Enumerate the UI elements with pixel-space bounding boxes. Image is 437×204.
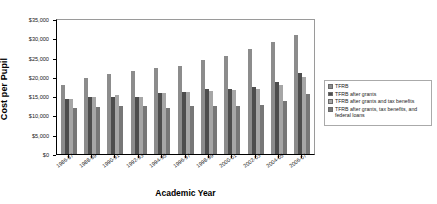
y-tick-label: $35,000 — [29, 17, 49, 23]
legend-swatch-icon — [328, 99, 333, 104]
plot-area — [56, 19, 315, 155]
x-tick-label: 1992-93 — [125, 152, 144, 169]
bar-groups — [57, 20, 314, 154]
bar-group — [61, 20, 77, 154]
bar — [260, 105, 264, 154]
legend-swatch-icon — [328, 84, 333, 89]
y-tick-label: $5,000 — [32, 133, 49, 139]
y-tick-label: $15,000 — [29, 94, 49, 100]
x-tick-label: 2004-05 — [265, 152, 284, 169]
bar — [96, 107, 100, 154]
legend-item[interactable]: TFRB after grants and tax benefits — [328, 98, 429, 104]
bar — [143, 106, 147, 154]
legend-item-label: TFRB after grants and tax benefits — [335, 98, 414, 104]
bar — [190, 106, 194, 154]
y-tick-label: $20,000 — [29, 75, 49, 81]
chart-legend: TFRBTFRB after grantsTFRB after grants a… — [324, 80, 432, 126]
bar-group — [224, 20, 240, 154]
x-tick-label: 1986-87 — [55, 152, 74, 169]
bar — [166, 108, 170, 154]
legend-swatch-icon — [328, 92, 333, 97]
bar-group — [107, 20, 123, 154]
bar-group — [201, 20, 217, 154]
bar — [306, 94, 310, 154]
bar — [236, 106, 240, 154]
legend-item[interactable]: TFRB — [328, 83, 429, 89]
y-axis-tick-labels: $35,000$30,000$25,000$20,000$15,000$10,0… — [0, 0, 56, 162]
y-tick-label: $30,000 — [29, 36, 49, 42]
bar — [119, 106, 123, 154]
legend-swatch-icon — [328, 107, 333, 112]
bar-group — [84, 20, 100, 154]
x-tick-label: 2000-01 — [218, 152, 237, 169]
x-tick-label: 1998-99 — [195, 152, 214, 169]
legend-item-label: TFRB after grants, tax benefits, and fed… — [335, 106, 429, 118]
x-tick-label: 1996-97 — [172, 152, 191, 169]
x-tick-label: 2006-07 — [288, 152, 307, 169]
y-tick-label: $10,000 — [29, 113, 49, 119]
legend-item[interactable]: TFRB after grants — [328, 91, 429, 97]
x-tick-label: 1988-89 — [78, 152, 97, 169]
bar-group — [271, 20, 287, 154]
bar — [213, 106, 217, 154]
bar-group — [178, 20, 194, 154]
bar-group — [294, 20, 310, 154]
legend-item-label: TFRB — [335, 83, 349, 89]
x-tick-label: 1990-91 — [101, 152, 120, 169]
x-tick-label: 1994-95 — [148, 152, 167, 169]
chart-container: Cost per Pupil $35,000$30,000$25,000$20,… — [0, 0, 437, 204]
y-tick-label: $25,000 — [29, 56, 49, 62]
legend-item[interactable]: TFRB after grants, tax benefits, and fed… — [328, 106, 429, 118]
bar-group — [131, 20, 147, 154]
x-tick-label: 2002-03 — [242, 152, 261, 169]
x-axis-title: Academic Year — [56, 188, 315, 198]
bar-group — [154, 20, 170, 154]
bar — [73, 108, 77, 154]
legend-item-label: TFRB after grants — [335, 91, 376, 97]
bar — [283, 101, 287, 154]
bar-group — [248, 20, 264, 154]
